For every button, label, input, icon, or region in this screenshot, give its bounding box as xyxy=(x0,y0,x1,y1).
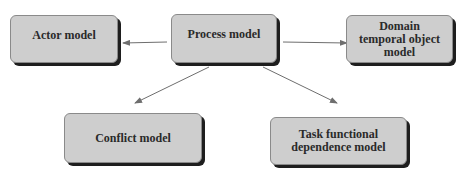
node-process-model: Process model xyxy=(171,14,277,63)
node-label: Actor model xyxy=(32,29,95,42)
edge-process-to-actor xyxy=(123,42,167,43)
edge-process-to-domain xyxy=(283,42,347,43)
node-conflict-model: Conflict model xyxy=(64,113,202,163)
node-actor-model: Actor model xyxy=(10,15,118,63)
node-label: Process model xyxy=(188,28,261,41)
node-task-functional-dependence-model: Task functional dependence model xyxy=(270,117,407,165)
edge-process-to-conflict xyxy=(135,67,209,103)
node-domain-temporal-object-model: Domain temporal object model xyxy=(346,15,453,63)
node-label: Conflict model xyxy=(95,132,171,145)
node-label: Domain temporal object model xyxy=(357,20,442,59)
edge-process-to-task xyxy=(263,67,337,103)
node-label: Task functional dependence model xyxy=(289,128,388,154)
